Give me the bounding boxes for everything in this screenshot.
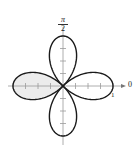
polar-rose-plot <box>0 0 139 149</box>
angle-label-zero: 0 <box>128 81 132 89</box>
pi-denominator: 2 <box>58 25 68 33</box>
radial-tick-label-one: 1 <box>111 92 115 99</box>
polar-axis-arrow-icon <box>121 84 126 88</box>
angle-label-pi-over-2: π 2 <box>58 16 68 33</box>
